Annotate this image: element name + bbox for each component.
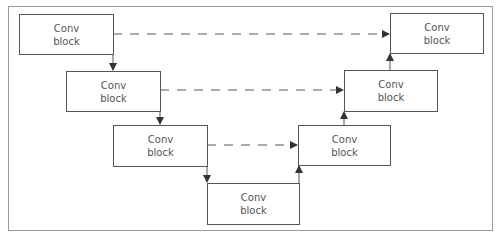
conv-block-dec1: Conv block: [390, 13, 484, 54]
block-label: Conv: [332, 133, 357, 146]
conv-block-enc3: Conv block: [113, 125, 208, 167]
block-label: Conv: [241, 191, 266, 204]
conv-block-bottleneck: Conv block: [207, 183, 300, 225]
block-label: Conv: [101, 79, 126, 92]
block-label: Conv: [378, 78, 403, 91]
block-label: block: [240, 204, 267, 217]
block-label: block: [378, 91, 405, 104]
conv-block-enc1: Conv block: [19, 14, 114, 55]
conv-block-dec3: Conv block: [298, 125, 391, 166]
block-label: Conv: [424, 21, 449, 34]
block-label: block: [424, 34, 451, 47]
block-label: Conv: [148, 133, 173, 146]
block-label: block: [53, 35, 80, 48]
block-label: block: [147, 146, 174, 159]
block-label: Conv: [54, 22, 79, 35]
block-label: block: [100, 92, 127, 105]
conv-block-enc2: Conv block: [66, 71, 161, 112]
conv-block-dec2: Conv block: [344, 70, 438, 112]
block-label: block: [331, 146, 358, 159]
